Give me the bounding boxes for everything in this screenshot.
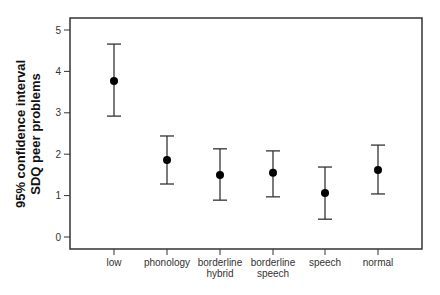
mean-marker [163,156,171,164]
mean-marker [269,169,277,177]
x-category-label: phonology [144,257,190,268]
y-axis-title: SDQ peer problems [28,73,43,194]
y-tick-label: 2 [55,149,61,160]
axes: 012345lowphonologyborderlinehybridborder… [55,18,422,279]
x-category-label: low [106,257,122,268]
y-tick-label: 4 [55,66,61,77]
error-bar [371,145,385,194]
x-category-label: speech [257,268,289,279]
y-axis-label: 95% confidence intervalSDQ peer problems [13,60,43,208]
x-category-label: speech [309,257,341,268]
mean-marker [216,171,224,179]
error-bar [266,151,280,197]
plot-frame [70,18,422,249]
x-category-label: normal [363,257,394,268]
x-category-label: hybrid [206,268,233,279]
y-tick-label: 1 [55,190,61,201]
y-tick-label: 0 [55,232,61,243]
error-bar [107,44,121,116]
error-bars [107,44,385,219]
mean-marker [374,166,382,174]
mean-marker [321,189,329,197]
error-bar-chart: 012345lowphonologyborderlinehybridborder… [0,0,440,295]
x-category-label: borderline [198,257,243,268]
x-category-label: borderline [251,257,296,268]
error-bar [318,167,332,219]
mean-marker [110,77,118,85]
y-tick-label: 5 [55,25,61,36]
error-bar [213,149,227,200]
error-bar [160,136,174,184]
y-tick-label: 3 [55,107,61,118]
y-axis-title: 95% confidence interval [13,60,28,208]
